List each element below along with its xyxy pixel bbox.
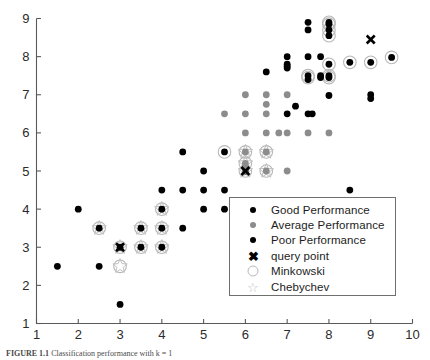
data-point	[200, 206, 207, 213]
legend-label-minkowski: Minkowski	[271, 265, 325, 277]
legend-item-chebychev: ☆ Chebychev	[230, 279, 395, 294]
data-point	[284, 168, 291, 175]
x-tick-label: 5	[200, 327, 207, 342]
data-point	[221, 110, 228, 117]
data-point	[326, 32, 333, 39]
data-point	[284, 53, 291, 60]
data-point	[221, 149, 228, 156]
data-point	[346, 59, 353, 66]
y-tick-label: 7	[22, 87, 29, 102]
data-point	[284, 65, 291, 72]
data-point	[367, 95, 374, 102]
data-point	[263, 110, 270, 117]
data-point	[388, 54, 395, 61]
x-tick-label: 3	[116, 327, 123, 342]
poor-performance-marker-icon	[235, 233, 271, 248]
data-point	[284, 91, 291, 98]
data-point	[263, 68, 270, 75]
data-point	[158, 206, 165, 213]
data-point	[317, 74, 324, 81]
legend-label-poor: Poor Performance	[271, 234, 366, 246]
legend-label-average: Average Performance	[271, 219, 385, 231]
data-point	[367, 59, 374, 66]
data-point	[96, 225, 103, 232]
data-point	[179, 149, 186, 156]
data-point	[263, 91, 270, 98]
data-point	[326, 61, 333, 68]
data-point	[326, 129, 333, 136]
data-point	[326, 92, 333, 99]
scatter-plot: 12345678910123456789	[0, 0, 430, 360]
y-tick-label: 6	[22, 125, 29, 140]
data-point	[221, 187, 228, 194]
x-tick-label: 6	[242, 327, 249, 342]
query-point-x-icon: ✖	[235, 248, 271, 263]
legend-item-poor: Poor Performance	[230, 233, 395, 248]
data-point	[117, 301, 124, 308]
data-point	[263, 101, 270, 108]
figure-container: 12345678910123456789 Good Performance Av…	[0, 0, 430, 360]
data-point	[179, 225, 186, 232]
data-point	[200, 187, 207, 194]
data-point	[158, 187, 165, 194]
y-tick-label: 2	[22, 278, 29, 293]
legend-label-query-point: query point	[271, 250, 329, 262]
legend-item-good: Good Performance	[230, 202, 395, 217]
data-point	[242, 149, 249, 156]
legend-label-chebychev: Chebychev	[271, 281, 329, 293]
legend-item-minkowski: Minkowski	[230, 264, 395, 279]
average-performance-marker-icon	[235, 218, 271, 233]
data-point	[284, 129, 291, 136]
data-point	[138, 244, 145, 251]
data-point	[242, 110, 249, 117]
good-performance-marker-icon	[235, 202, 271, 217]
x-tick-label: 4	[158, 327, 165, 342]
x-tick-label: 9	[367, 327, 374, 342]
data-point	[305, 27, 312, 34]
caption-text: Classification performance with k = 1	[51, 349, 172, 358]
y-tick-label: 4	[22, 202, 29, 217]
x-tick-label: 10	[405, 327, 419, 342]
query-point-marker	[367, 35, 375, 43]
data-point	[221, 206, 228, 213]
legend-item-average: Average Performance	[230, 217, 395, 232]
chebychev-star-icon: ☆	[235, 279, 271, 294]
data-point	[263, 129, 270, 136]
data-point	[263, 149, 270, 156]
x-tick-label: 2	[75, 327, 82, 342]
data-point	[275, 129, 282, 136]
data-point	[263, 168, 270, 175]
x-tick-label: 8	[325, 327, 332, 342]
data-point	[75, 206, 82, 213]
legend-item-query-point: ✖ query point	[230, 248, 395, 263]
caption-label: FIGURE 1.1	[6, 349, 49, 358]
data-point	[346, 187, 353, 194]
legend-label-good: Good Performance	[271, 204, 370, 216]
data-point	[158, 244, 165, 251]
data-point	[305, 19, 312, 26]
data-point	[138, 225, 145, 232]
legend: Good Performance Average Performance Poo…	[229, 197, 396, 296]
y-tick-label: 8	[22, 49, 29, 64]
data-point	[54, 263, 61, 270]
data-point	[284, 110, 291, 117]
x-tick-label: 7	[284, 327, 291, 342]
data-point	[309, 110, 316, 117]
data-point	[326, 74, 333, 81]
minkowski-circle-icon	[235, 264, 271, 279]
data-point	[242, 91, 249, 98]
data-point	[305, 129, 312, 136]
data-point	[305, 76, 312, 83]
data-point	[292, 103, 299, 110]
data-point	[200, 168, 207, 175]
x-tick-label: 1	[33, 327, 40, 342]
data-point	[96, 263, 103, 270]
data-point	[317, 53, 324, 60]
data-point	[179, 187, 186, 194]
data-point	[242, 129, 249, 136]
data-point	[305, 53, 312, 60]
y-tick-label: 1	[22, 316, 29, 331]
y-tick-label: 9	[22, 11, 29, 26]
data-point	[158, 225, 165, 232]
y-tick-label: 3	[22, 240, 29, 255]
